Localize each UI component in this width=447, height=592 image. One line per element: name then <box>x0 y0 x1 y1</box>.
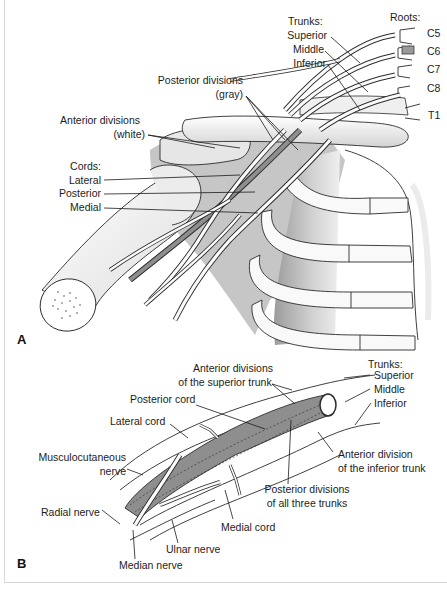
trunk-label-superior: Superior <box>287 29 327 42</box>
posterior-cord-end <box>320 394 336 416</box>
posterior-divisions-label-line1: Posterior divisions <box>158 74 243 87</box>
cords-heading: Cords: <box>70 160 101 173</box>
anterior-division-inferior-line1: Anterior division <box>338 448 413 461</box>
cord-label-posterior: Posterior <box>59 187 101 200</box>
root-label-c7: C7 <box>427 63 440 76</box>
trunk-label-inferior: Inferior <box>293 57 326 70</box>
trunks-heading: Trunks: <box>288 15 323 28</box>
medial-cord-label: Medial cord <box>221 521 275 534</box>
posterior-divisions-label-line2: (gray) <box>216 88 243 101</box>
posterior-cord-label: Posterior cord <box>130 393 195 406</box>
cord-label-medial: Medial <box>70 201 101 214</box>
b-trunk-label-superior: Superior <box>374 369 414 382</box>
anterior-divisions-superior-line1: Anterior divisions <box>188 362 278 375</box>
trunk-label-middle: Middle <box>293 43 324 56</box>
root-label-c6: C6 <box>427 45 440 58</box>
brachial-plexus-figure: Roots: C5 C6 C7 C8 T1 Trunks: Superior M… <box>0 0 447 592</box>
anterior-divisions-label-line1: Anterior divisions <box>60 114 140 127</box>
cord-label-lateral: Lateral <box>69 174 101 187</box>
lateral-cord-label: Lateral cord <box>110 415 165 428</box>
radial-nerve-label: Radial nerve <box>41 506 100 519</box>
b-trunk-label-inferior: Inferior <box>374 397 407 410</box>
root-label-c8: C8 <box>427 82 440 95</box>
root-label-t1: T1 <box>428 109 440 122</box>
anterior-division-inferior-line2: of the inferior trunk <box>338 462 426 475</box>
posterior-divisions-all-line1: Posterior divisions <box>262 483 352 496</box>
median-nerve-label: Median nerve <box>119 559 183 572</box>
posterior-divisions-all-line2: of all three trunks <box>262 497 352 510</box>
panel-a-letter: A <box>17 332 26 347</box>
anterior-divisions-superior-line2: of the superior trunk <box>175 376 275 389</box>
anterior-divisions-label-line2: (white) <box>113 128 145 141</box>
ulnar-nerve-label: Ulnar nerve <box>166 543 220 556</box>
roots-heading: Roots: <box>390 11 420 24</box>
musculocutaneous-label-line2: nerve <box>100 465 126 478</box>
panel-b-letter: B <box>17 556 26 571</box>
musculocutaneous-label-line1: Musculocutaneous <box>38 451 126 464</box>
b-trunk-label-middle: Middle <box>374 383 405 396</box>
root-label-c5: C5 <box>427 27 440 40</box>
